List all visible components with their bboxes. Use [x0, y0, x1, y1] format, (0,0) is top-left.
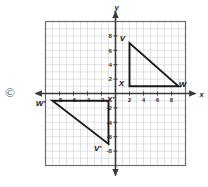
- graph-canvas: -8-6-4-224688642-2-4-6-8 VXWX'W'V' xy: [0, 0, 208, 187]
- svg-text:-8: -8: [106, 147, 112, 154]
- svg-text:W': W': [36, 99, 47, 108]
- svg-text:6: 6: [156, 96, 160, 103]
- svg-text:y: y: [113, 3, 119, 12]
- svg-text:-2: -2: [106, 104, 112, 111]
- svg-text:V: V: [120, 34, 126, 43]
- svg-text:W: W: [179, 80, 188, 89]
- svg-text:2: 2: [109, 75, 113, 82]
- copyright-icon: ©: [5, 86, 15, 99]
- svg-text:-6: -6: [106, 133, 112, 140]
- svg-text:4: 4: [109, 61, 113, 68]
- svg-text:x: x: [198, 90, 204, 99]
- svg-text:X': X': [106, 95, 115, 104]
- svg-text:X: X: [118, 79, 125, 88]
- svg-text:V': V': [94, 144, 102, 153]
- svg-text:2: 2: [128, 96, 132, 103]
- svg-text:8: 8: [109, 32, 113, 39]
- svg-text:4: 4: [142, 96, 146, 103]
- svg-text:8: 8: [170, 96, 174, 103]
- svg-text:6: 6: [109, 47, 113, 54]
- svg-text:-4: -4: [106, 119, 112, 126]
- coordinate-plane-figure: © -8-6-4-224688642-2-4-6-8 VXWX'W'V' xy: [0, 0, 208, 187]
